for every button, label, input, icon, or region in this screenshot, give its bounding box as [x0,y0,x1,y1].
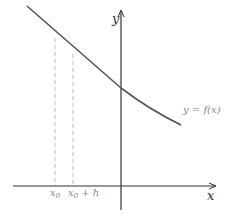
svg-text:x0 + h: x0 + h [68,187,99,200]
y-axis-label: y [111,11,120,26]
curve-label: y = f(x) [182,104,221,115]
function-diagram: y x y = f(x) x0 x0 + h [0,0,241,224]
x-axis-label: x [207,188,215,203]
svg-text:x0: x0 [50,187,61,200]
x0-label: x0 [50,187,61,200]
function-curve [27,6,181,125]
x0-plus-h-label: x0 + h [68,187,99,200]
